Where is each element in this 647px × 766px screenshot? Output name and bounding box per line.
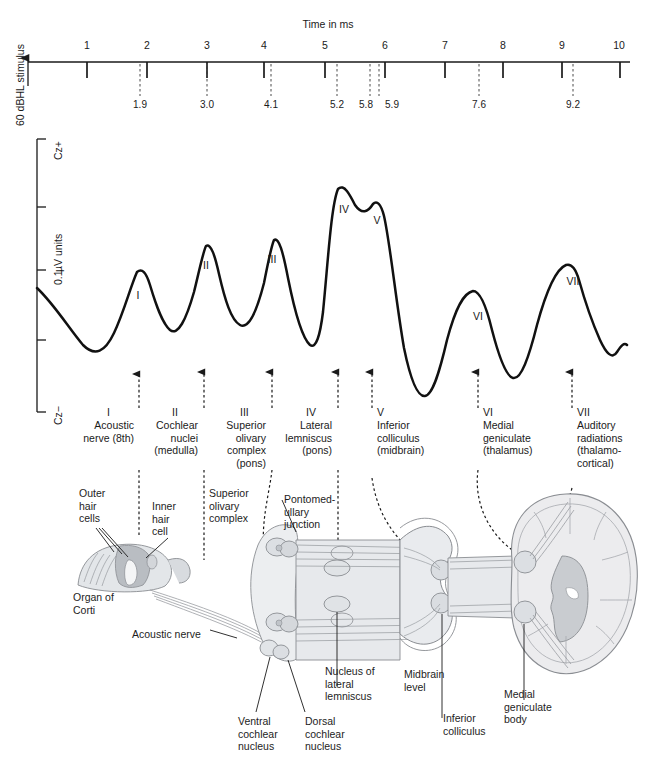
x-tick-10: 10 xyxy=(607,39,631,51)
label-organ-of-corti: Organ of Corti xyxy=(73,591,114,616)
abr-waveform-trace xyxy=(37,187,627,396)
label-outer-hair-cells: Outer hair cells xyxy=(79,487,105,525)
label-ventral-cochlear-nucleus: Ventral cochlear nucleus xyxy=(238,715,278,753)
abr-figure: Time in ms 1 2 3 4 5 6 7 8 9 10 1.9 3.0 … xyxy=(0,0,647,766)
generator-roman-IV: IV xyxy=(306,406,336,418)
y-axis-scale-value: 0.1 xyxy=(52,270,64,285)
generator-roman-I: I xyxy=(107,406,137,418)
label-midbrain-level: Midbrain level xyxy=(404,668,444,693)
time-axis xyxy=(28,58,630,96)
time-axis-title: Time in ms xyxy=(258,18,398,30)
generator-name-III: Superior olivary complex (pons) xyxy=(198,419,266,469)
generator-name-IV: Lateral lemniscus (pons) xyxy=(262,419,332,457)
generator-name-VII: Auditory radiations (thalamo- cortical) xyxy=(577,419,647,469)
x-tick-5: 5 xyxy=(313,39,337,51)
latency-value-5: 5.8 xyxy=(354,99,378,110)
generator-name-VI: Medial geniculate (thalamus) xyxy=(483,419,567,457)
generator-roman-VI: VI xyxy=(483,406,513,418)
peak-label-III: III xyxy=(261,253,283,265)
latency-value-6: 5.9 xyxy=(380,99,404,110)
latency-value-2: 3.0 xyxy=(195,99,219,110)
x-tick-9: 9 xyxy=(550,39,574,51)
x-tick-8: 8 xyxy=(491,39,515,51)
y-axis-top-label: Cz+ xyxy=(52,141,64,160)
generator-roman-II: II xyxy=(172,406,202,418)
peak-label-IV: IV xyxy=(333,203,355,215)
y-axis-units-label: µV units xyxy=(52,234,64,272)
latency-value-3: 4.1 xyxy=(259,99,283,110)
generator-roman-V: V xyxy=(377,406,407,418)
x-tick-4: 4 xyxy=(252,39,276,51)
x-tick-2: 2 xyxy=(135,39,159,51)
generator-name-II: Cochlear nuclei (medulla) xyxy=(132,419,198,457)
x-tick-3: 3 xyxy=(195,39,219,51)
latency-value-1: 1.9 xyxy=(128,99,152,110)
brainstem-illustration xyxy=(251,518,518,661)
x-tick-7: 7 xyxy=(433,39,457,51)
peak-label-II: II xyxy=(195,259,217,271)
generator-roman-VII: VII xyxy=(577,406,607,418)
label-inferior-colliculus: Inferior colliculus xyxy=(443,712,486,737)
label-acoustic-nerve: Acoustic nerve xyxy=(132,628,201,641)
x-tick-6: 6 xyxy=(373,39,397,51)
generator-arrows xyxy=(139,372,572,408)
latency-value-4: 5.2 xyxy=(325,99,349,110)
stimulus-level-label: 60 dBHL stimulus xyxy=(14,44,27,126)
label-superior-olivary-complex: Superior olivary complex xyxy=(209,487,249,525)
label-nucleus-of-lateral-lemniscus: Nucleus of lateral lemniscus xyxy=(325,665,375,703)
label-inner-hair-cell: Inner hair cell xyxy=(152,500,176,538)
label-medial-geniculate-body: Medial geniculate body xyxy=(504,688,552,726)
peak-label-I: I xyxy=(127,289,149,301)
label-dorsal-cochlear-nucleus: Dorsal cochlear nucleus xyxy=(305,715,345,753)
generator-roman-III: III xyxy=(240,406,270,418)
figure-canvas xyxy=(0,0,647,766)
peak-label-V: V xyxy=(366,214,388,226)
generator-name-I: Acoustic nerve (8th) xyxy=(62,419,134,444)
latency-value-8: 9.2 xyxy=(561,99,585,110)
x-tick-1: 1 xyxy=(75,39,99,51)
peak-label-VII: VII xyxy=(562,275,584,287)
amplitude-axis xyxy=(37,139,46,412)
generator-name-V: Inferior colliculus (midbrain) xyxy=(377,419,457,457)
label-pontomedullary-junction: Pontomed- ullary junction xyxy=(284,493,335,531)
latency-value-7: 7.6 xyxy=(467,99,491,110)
cerebrum-illustration xyxy=(511,494,637,674)
peak-label-VI: VI xyxy=(467,310,489,322)
